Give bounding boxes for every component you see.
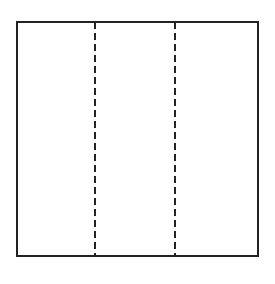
square-outline [17, 22, 258, 256]
folded-square-diagram [0, 0, 275, 284]
